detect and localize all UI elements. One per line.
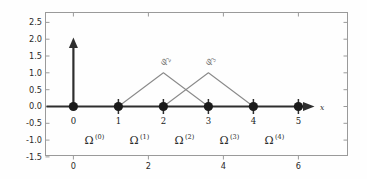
y-tick-label-2: 1.5 xyxy=(29,51,42,61)
x-tick-label-0: 0 xyxy=(71,161,76,171)
omega-symbol: Ω xyxy=(219,134,228,147)
x-tick-label-1: 2 xyxy=(146,161,151,171)
chart-figure: 2.5 2.0 1.5 1.0 0.5 0.0 -0.5 -1.0 -1.5 0… xyxy=(0,0,367,179)
y-tick-label-8: -1.5 xyxy=(26,152,42,162)
y-tick-label-5: 0.0 xyxy=(29,101,42,111)
y-tick-label-7: -1.0 xyxy=(26,135,42,145)
omega-symbol: Ω xyxy=(174,134,183,147)
omega-superscript: (1) xyxy=(140,133,150,141)
omega-symbol: Ω xyxy=(129,134,138,147)
node-marker xyxy=(69,102,78,111)
finite-element-basis-chart: 2.5 2.0 1.5 1.0 0.5 0.0 -0.5 -1.0 -1.5 0… xyxy=(0,0,367,179)
y-tick-label-0: 2.5 xyxy=(29,17,42,27)
omega-superscript: (4) xyxy=(275,133,285,141)
node-label-1: 1 xyxy=(116,116,121,126)
x-tick-label-3: 6 xyxy=(296,161,301,171)
omega-symbol: Ω xyxy=(84,134,93,147)
omega-superscript: (3) xyxy=(230,133,240,141)
figure-background xyxy=(0,0,367,179)
x-tick-label-2: 4 xyxy=(221,161,226,171)
node-label-5: 5 xyxy=(296,116,301,126)
node-label-4: 4 xyxy=(251,116,256,126)
node-marker xyxy=(204,102,213,111)
omega-symbol: Ω xyxy=(264,134,273,147)
y-tick-label-6: -0.5 xyxy=(26,118,42,128)
omega-superscript: (0) xyxy=(95,133,105,141)
y-tick-label-4: 0.5 xyxy=(29,85,42,95)
y-tick-label-3: 1.0 xyxy=(29,68,42,78)
node-marker xyxy=(249,102,258,111)
y-tick-label-1: 2.0 xyxy=(29,34,42,44)
node-label-3: 3 xyxy=(206,116,211,126)
omega-superscript: (2) xyxy=(185,133,195,141)
node-label-2: 2 xyxy=(161,116,166,126)
node-marker xyxy=(294,102,303,111)
node-marker xyxy=(114,102,123,111)
node-label-0: 0 xyxy=(71,116,76,126)
node-marker xyxy=(159,102,168,111)
